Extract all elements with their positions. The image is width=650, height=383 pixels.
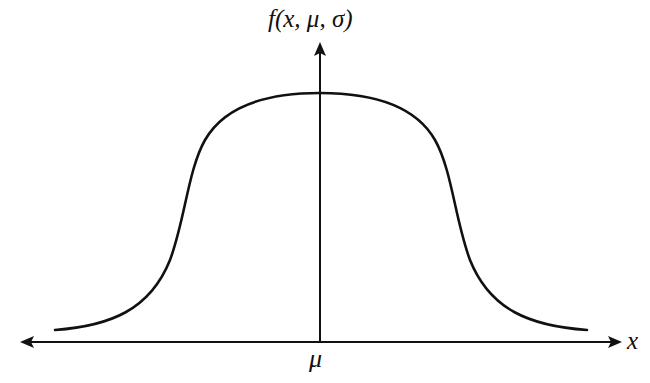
mu-tick-label: μ bbox=[309, 346, 322, 372]
distribution-diagram bbox=[0, 0, 650, 383]
x-axis-label: x bbox=[627, 328, 638, 353]
y-axis-label: f(x, μ, σ) bbox=[268, 6, 353, 31]
